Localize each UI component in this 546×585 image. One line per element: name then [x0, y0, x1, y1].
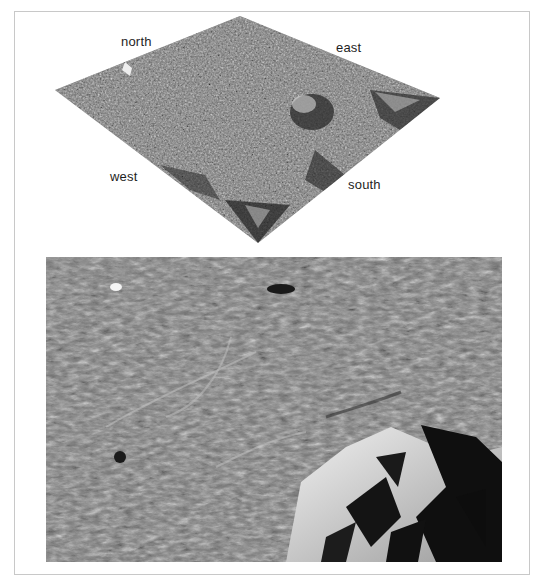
terrain-3d-panel: [0, 0, 546, 250]
terrain-closeup-image: [46, 257, 502, 562]
label-west: west: [110, 169, 138, 184]
label-north: north: [121, 34, 152, 49]
terrain-closeup-panel: [46, 257, 502, 562]
label-east: east: [336, 40, 361, 55]
label-south: south: [348, 177, 381, 192]
terrain-3d-surface: [0, 0, 546, 250]
